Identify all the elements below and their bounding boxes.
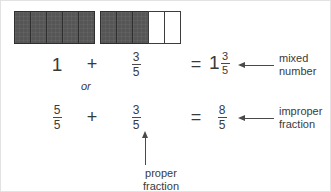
bar-cell-shaded xyxy=(46,11,63,44)
callout-mixed-number: mixed number xyxy=(238,52,316,78)
callout-improper-fraction: improper fraction xyxy=(238,105,322,131)
fraction-bar-whole xyxy=(14,11,94,44)
bar-cell-shaded xyxy=(30,11,47,44)
fraction-numerator: 5 xyxy=(53,104,62,116)
fraction-numerator: 3 xyxy=(132,104,141,116)
callout-line-1: improper xyxy=(279,105,322,117)
fraction-five-fifths: 5 5 xyxy=(53,104,62,131)
bar-cell-empty xyxy=(148,11,165,44)
arrow-shaft xyxy=(244,65,274,66)
bar-cell-shaded xyxy=(132,11,149,44)
mixed-whole-part: 1 xyxy=(209,53,220,72)
equals-icon: = xyxy=(191,108,202,126)
bar-cell-shaded xyxy=(116,11,133,44)
mixed-number-value: 1 3 5 xyxy=(209,52,230,77)
mixed-fraction-part: 3 5 xyxy=(221,51,230,76)
mixed-result: 1 3 5 xyxy=(209,49,241,79)
fraction-three-fifths: 3 5 xyxy=(132,104,141,131)
fraction-three-fifths: 3 5 xyxy=(132,51,141,78)
fraction-denominator: 5 xyxy=(132,119,141,131)
or-label: or xyxy=(81,80,91,92)
fraction-bar-partial xyxy=(100,11,180,44)
callout-line-1: proper xyxy=(145,167,177,179)
improper-term2: 3 5 xyxy=(125,102,147,132)
arrow-shaft xyxy=(145,137,146,165)
fraction-denominator: 5 xyxy=(53,119,62,131)
plus-icon: + xyxy=(87,108,98,126)
callout-mixed-number-label: mixed number xyxy=(279,52,316,78)
fraction-denominator: 5 xyxy=(218,119,227,131)
fraction-denominator: 5 xyxy=(221,65,229,76)
mixed-equals: = xyxy=(187,49,205,79)
callout-line-2: number xyxy=(279,65,316,77)
diagram-canvas: 1 + 3 5 = 1 3 5 or xyxy=(0,0,331,192)
callout-proper-fraction-label: proper fraction xyxy=(116,167,206,192)
improper-result: 8 5 xyxy=(211,102,233,132)
mixed-term2: 3 5 xyxy=(125,49,147,79)
fraction-numerator: 3 xyxy=(221,51,229,62)
fraction-numerator: 3 xyxy=(132,51,141,63)
callout-improper-fraction-label: improper fraction xyxy=(279,105,322,131)
mixed-term1: 1 xyxy=(46,49,68,79)
bar-cell-empty xyxy=(164,11,181,44)
improper-equals: = xyxy=(187,102,205,132)
callout-line-1: mixed xyxy=(279,52,308,64)
mixed-term1-value: 1 xyxy=(52,55,63,74)
improper-fraction-value: 8 5 xyxy=(218,104,227,131)
plus-icon: + xyxy=(87,55,98,73)
bar-cell-shaded xyxy=(62,11,79,44)
improper-operator: + xyxy=(81,102,103,132)
fraction-numerator: 8 xyxy=(218,104,227,116)
bar-cell-shaded xyxy=(14,11,31,44)
arrow-left-icon xyxy=(238,61,274,70)
callout-line-2: fraction xyxy=(279,118,315,130)
equals-icon: = xyxy=(191,55,202,73)
callout-line-2: fraction xyxy=(143,180,179,192)
improper-term1: 5 5 xyxy=(46,102,68,132)
bar-cell-shaded xyxy=(78,11,95,44)
fraction-denominator: 5 xyxy=(132,66,141,78)
mixed-operator: + xyxy=(81,49,103,79)
arrow-up-icon xyxy=(141,131,150,165)
arrow-shaft xyxy=(244,118,274,119)
bar-cell-shaded xyxy=(100,11,117,44)
arrow-left-icon xyxy=(238,114,274,123)
